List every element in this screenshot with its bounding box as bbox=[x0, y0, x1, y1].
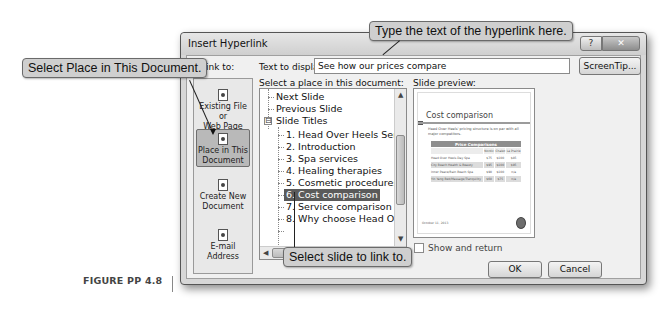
email-icon bbox=[218, 229, 228, 241]
arrowhead-icon bbox=[210, 129, 216, 135]
select-place-label: Select a place in this document: bbox=[259, 78, 404, 88]
show-and-return-label: Show and return bbox=[428, 243, 502, 253]
tree-item-next-slide[interactable]: Next Slide bbox=[276, 91, 324, 103]
tree-item-previous-slide[interactable]: Previous Slide bbox=[276, 103, 342, 115]
tree-item-slide-8[interactable]: 8. Why choose Head Over Heels bbox=[286, 213, 407, 225]
tree-item-slide-4[interactable]: 4. Healing therapies bbox=[286, 165, 382, 177]
title-bar-buttons: ? ✕ bbox=[580, 36, 640, 51]
company-logo-icon bbox=[516, 217, 526, 229]
document-place-icon bbox=[218, 133, 228, 145]
slide-preview-label: Slide preview: bbox=[413, 78, 476, 88]
callout-type-text: Type the text of the hyperlink here. bbox=[369, 21, 573, 41]
ok-button[interactable]: OK bbox=[488, 261, 542, 278]
link-to-existing-file[interactable]: Existing File or Web Page bbox=[196, 89, 250, 132]
tree-vertical-scroll-thumb[interactable] bbox=[396, 135, 405, 205]
slide-date: October 11, 2013 bbox=[422, 221, 448, 225]
link-to-email-address[interactable]: E-mail Address bbox=[196, 229, 250, 262]
tree-vertical-scrollbar[interactable]: ▲ ▼ bbox=[394, 89, 406, 247]
callout-arrow bbox=[294, 192, 295, 247]
insert-hyperlink-dialog: Insert Hyperlink ? ✕ Link to: Text to di… bbox=[180, 32, 647, 285]
tree-item-slide-5[interactable]: 5. Cosmetic procedures bbox=[286, 177, 398, 189]
screentip-button[interactable]: ScreenTip... bbox=[579, 57, 641, 75]
price-comparison-table: Price Comparisons Nordic Chalet La Prair… bbox=[430, 140, 522, 183]
close-button[interactable]: ✕ bbox=[602, 36, 640, 51]
web-page-icon bbox=[218, 89, 228, 101]
tree-item-slide-titles[interactable]: Slide Titles bbox=[276, 115, 328, 127]
help-button[interactable]: ? bbox=[580, 36, 602, 51]
new-document-icon bbox=[218, 179, 228, 191]
scroll-left-icon[interactable]: ◀ bbox=[263, 249, 268, 257]
tree-item-slide-1[interactable]: 1. Head Over Heels Services bbox=[286, 129, 407, 141]
cancel-button[interactable]: Cancel bbox=[548, 261, 602, 278]
tree-item-slide-7[interactable]: 7. Service comparison bbox=[286, 201, 392, 213]
link-to-place-in-document[interactable]: Place in This Document bbox=[196, 129, 250, 167]
figure-label: FIGURE PP 4.8 bbox=[83, 275, 162, 286]
tree-item-slide-3[interactable]: 3. Spa services bbox=[286, 153, 358, 165]
scroll-down-icon[interactable]: ▼ bbox=[398, 235, 403, 243]
tree-item-slide-6[interactable]: 6. Cost comparison bbox=[284, 189, 380, 201]
slide-thumbnail: Cost comparison Head Over Heels' pricing… bbox=[417, 92, 531, 234]
callout-select-slide: Select slide to link to. bbox=[283, 247, 412, 267]
dialog-title: Insert Hyperlink bbox=[188, 38, 268, 49]
slide-bullet: Head Over Heels' pricing structure is on… bbox=[428, 127, 523, 137]
tree-item-slide-2[interactable]: 2. Introduction bbox=[286, 141, 356, 153]
callout-select-place: Select Place in This Document. bbox=[22, 58, 207, 78]
scroll-up-icon[interactable]: ▲ bbox=[398, 91, 403, 99]
show-and-return-checkbox[interactable] bbox=[414, 243, 424, 253]
text-to-display-input[interactable]: See how our prices compare bbox=[314, 58, 570, 74]
slide-title: Cost comparison bbox=[426, 111, 493, 120]
collapse-icon[interactable]: ⊟ bbox=[264, 117, 272, 125]
place-tree-list[interactable]: ⊟ Next Slide Previous Slide Slide Titles… bbox=[259, 88, 407, 260]
figure-separator bbox=[172, 276, 173, 292]
dialog-client-area: Link to: Text to display: See how our pr… bbox=[186, 55, 641, 279]
link-to-create-new-document[interactable]: Create New Document bbox=[196, 179, 250, 212]
slide-preview: Cost comparison Head Over Heels' pricing… bbox=[413, 88, 535, 238]
